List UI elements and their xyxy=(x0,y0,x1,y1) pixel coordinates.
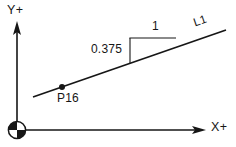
x-axis-label: X+ xyxy=(211,121,228,134)
point-p16-label: P16 xyxy=(57,92,79,104)
slope-run-label: 1 xyxy=(152,20,159,32)
quadrant-origin-marker xyxy=(8,121,25,138)
slope-rise-label: 0.375 xyxy=(91,43,122,55)
point-p16-marker xyxy=(59,84,65,90)
diagram-canvas: Y+ X+ 0.375 1 L1 P16 xyxy=(0,0,236,147)
y-axis-label: Y+ xyxy=(7,4,24,17)
